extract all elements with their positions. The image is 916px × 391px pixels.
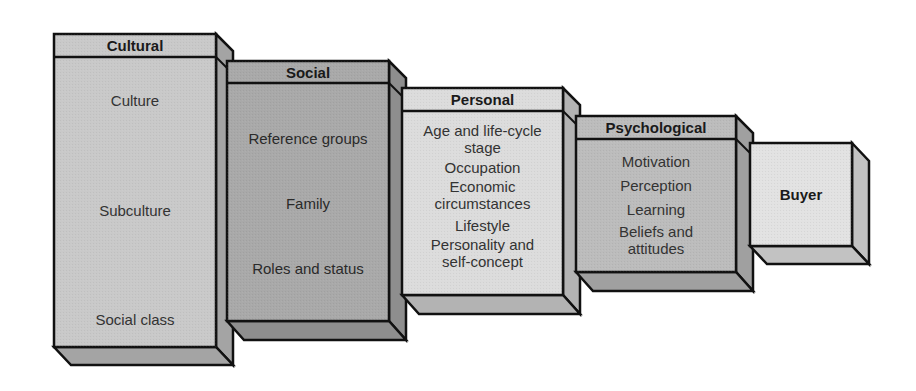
personal-item-lifestyle: Lifestyle: [455, 217, 510, 234]
social-block: Social Reference groups Family Roles and…: [227, 61, 389, 321]
psychological-title: Psychological: [576, 116, 736, 139]
personal-item-personality-self-concept: Personality and self-concept: [418, 236, 548, 270]
buyer-title: Buyer: [750, 186, 852, 203]
psychological-item-beliefs-attitudes: Beliefs and attitudes: [606, 223, 706, 257]
personal-block: Personal Age and life-cycle stage Occupa…: [402, 88, 563, 295]
personal-item-age-life-cycle: Age and life-cycle stage: [408, 122, 558, 156]
personal-item-occupation: Occupation: [445, 159, 521, 176]
cultural-block: Cultural Culture Subculture Social class: [54, 34, 216, 347]
social-item-roles-and-status: Roles and status: [227, 260, 389, 277]
cultural-item-social-class: Social class: [54, 311, 216, 328]
cultural-title: Cultural: [54, 34, 216, 57]
psychological-item-perception: Perception: [620, 177, 692, 194]
psychological-items: Motivation Perception Learning Beliefs a…: [576, 153, 736, 257]
psychological-block: Psychological Motivation Perception Lear…: [576, 116, 736, 272]
social-title: Social: [227, 61, 389, 83]
buyer-block: Buyer: [750, 143, 852, 246]
personal-title: Personal: [402, 88, 563, 111]
psychological-item-learning: Learning: [627, 201, 685, 218]
cultural-item-subculture: Subculture: [54, 202, 216, 219]
psychological-item-motivation: Motivation: [622, 153, 690, 170]
personal-item-economic-circumstances: Economic circumstances: [418, 178, 548, 212]
social-item-family: Family: [227, 195, 389, 212]
social-item-reference-groups: Reference groups: [227, 130, 389, 147]
personal-items: Age and life-cycle stage Occupation Econ…: [402, 122, 563, 270]
cultural-item-culture: Culture: [54, 92, 216, 109]
